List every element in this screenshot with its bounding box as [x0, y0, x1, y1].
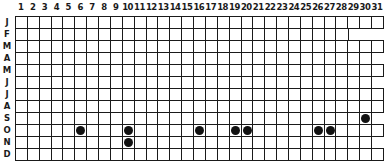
marked-day-dot	[243, 126, 252, 135]
day-label: 29	[347, 2, 359, 12]
day-label: 26	[312, 2, 324, 12]
month-label: J	[2, 77, 12, 87]
month-label: J	[2, 17, 12, 27]
day-label: 1	[15, 2, 27, 12]
day-label: 30	[359, 2, 371, 12]
month-label: A	[2, 101, 12, 111]
marked-day-dot	[124, 126, 133, 135]
day-cell	[371, 64, 384, 77]
day-label: 5	[62, 2, 74, 12]
day-label: 23	[276, 2, 288, 12]
day-label: 25	[300, 2, 312, 12]
day-label: 20	[240, 2, 252, 12]
month-label: M	[2, 65, 12, 75]
day-label: 28	[335, 2, 347, 12]
day-label: 27	[323, 2, 335, 12]
day-label: 24	[288, 2, 300, 12]
day-label: 18	[217, 2, 229, 12]
marked-day-dot	[124, 138, 133, 147]
month-label: O	[2, 125, 12, 135]
day-cell	[371, 124, 384, 137]
day-label: 19	[228, 2, 240, 12]
day-label: 2	[27, 2, 39, 12]
month-label: S	[2, 113, 12, 123]
month-label: D	[2, 149, 12, 159]
marked-day-dot	[326, 126, 335, 135]
month-label: J	[2, 89, 12, 99]
day-label: 22	[264, 2, 276, 12]
marked-day-dot	[314, 126, 323, 135]
month-label: M	[2, 41, 12, 51]
calendar-grid-chart: 1234567891011121314151617181920212223242…	[0, 0, 389, 162]
day-label: 6	[74, 2, 86, 12]
day-label: 15	[181, 2, 193, 12]
day-cell	[371, 16, 384, 29]
day-label: 9	[110, 2, 122, 12]
day-label: 11	[134, 2, 146, 12]
day-label: 14	[169, 2, 181, 12]
marked-day-dot	[231, 126, 240, 135]
day-label: 12	[145, 2, 157, 12]
day-label: 17	[205, 2, 217, 12]
day-cell	[371, 148, 384, 161]
month-label: F	[2, 29, 12, 39]
day-label: 3	[39, 2, 51, 12]
day-cell	[371, 40, 384, 53]
day-label: 16	[193, 2, 205, 12]
day-label: 13	[157, 2, 169, 12]
month-label: N	[2, 137, 12, 147]
day-label: 31	[371, 2, 383, 12]
day-label: 21	[252, 2, 264, 12]
day-label: 10	[122, 2, 134, 12]
month-label: A	[2, 53, 12, 63]
day-label: 7	[86, 2, 98, 12]
day-label: 4	[50, 2, 62, 12]
day-label: 8	[98, 2, 110, 12]
day-cell	[371, 100, 384, 113]
